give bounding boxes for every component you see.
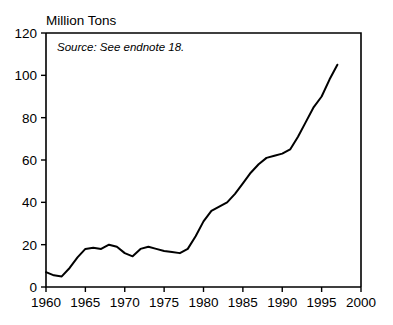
chart-figure: Million Tons Source: See endnote 18. 020… xyxy=(0,0,393,325)
y-tick-label: 0 xyxy=(29,280,37,295)
data-series-line xyxy=(46,65,337,277)
x-tick-label: 1970 xyxy=(110,295,140,310)
x-tick-label: 1975 xyxy=(149,295,179,310)
x-tick-label: 1990 xyxy=(267,295,297,310)
y-tick-label: 60 xyxy=(22,153,37,168)
x-tick-label: 1995 xyxy=(307,295,337,310)
x-axis-ticks: 196019651970197519801985199019952000 xyxy=(31,287,376,310)
x-tick-label: 1960 xyxy=(31,295,61,310)
plot-frame xyxy=(46,33,361,287)
y-tick-label: 40 xyxy=(22,195,37,210)
y-axis-ticks: 020406080100120 xyxy=(14,26,46,295)
line-chart: Million Tons Source: See endnote 18. 020… xyxy=(0,0,393,325)
x-tick-label: 1985 xyxy=(228,295,258,310)
y-tick-label: 80 xyxy=(22,111,37,126)
x-tick-label: 1980 xyxy=(188,295,218,310)
x-tick-label: 2000 xyxy=(346,295,376,310)
x-tick-label: 1965 xyxy=(70,295,100,310)
plot-border xyxy=(46,33,361,287)
y-axis-title: Million Tons xyxy=(46,13,117,28)
source-annotation: Source: See endnote 18. xyxy=(57,41,184,53)
y-tick-label: 120 xyxy=(14,26,37,41)
y-tick-label: 100 xyxy=(14,68,37,83)
axis-lines xyxy=(46,33,361,287)
y-tick-label: 20 xyxy=(22,238,37,253)
